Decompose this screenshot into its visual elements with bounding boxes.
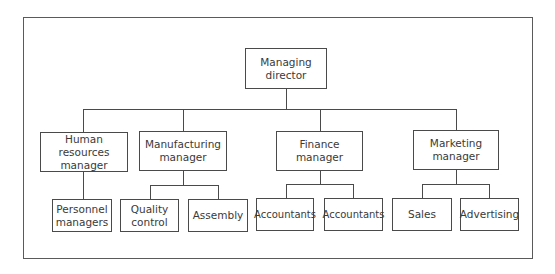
connector <box>422 184 423 198</box>
connector <box>83 171 84 199</box>
connector <box>456 109 457 130</box>
connector <box>320 170 321 184</box>
node-advertising: Advertising <box>460 198 519 231</box>
node-assembly: Assembly <box>188 199 248 232</box>
node-human-resources-manager: Human resources manager <box>40 132 128 172</box>
node-managing-director: Managing director <box>245 48 327 89</box>
connector <box>183 170 184 185</box>
connector <box>183 109 184 131</box>
connector <box>320 109 321 131</box>
node-finance-manager: Finance manager <box>276 131 363 171</box>
node-sales: Sales <box>392 198 452 231</box>
connector <box>83 109 457 110</box>
connector <box>353 184 354 198</box>
node-manufacturing-manager: Manufacturing manager <box>139 131 227 171</box>
connector <box>456 169 457 184</box>
connector <box>150 185 218 186</box>
connector <box>286 88 287 110</box>
connector <box>218 185 219 199</box>
connector <box>150 185 151 199</box>
connector <box>489 184 490 198</box>
connector <box>83 109 84 132</box>
connector <box>422 184 490 185</box>
node-quality-control: Quality control <box>120 199 179 232</box>
node-accountants-1: Accountants <box>256 198 314 231</box>
connector <box>286 184 354 185</box>
node-personnel-managers: Personnel managers <box>52 199 112 232</box>
node-accountants-2: Accountants <box>324 198 383 231</box>
node-marketing-manager: Marketing manager <box>413 130 499 170</box>
connector <box>286 184 287 198</box>
